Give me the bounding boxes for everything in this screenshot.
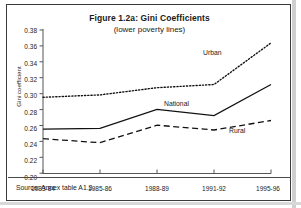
plot-area: Gini coefficient 0.38 0.36 0.34 0.32 0.3… bbox=[7, 5, 292, 202]
scan-edge-right bbox=[292, 0, 296, 208]
chart-canvas bbox=[7, 5, 292, 202]
source-divider bbox=[8, 177, 291, 178]
figure-frame: Figure 1.2a: Gini Coefficients (lower po… bbox=[6, 4, 291, 201]
y-axis-ticks bbox=[40, 30, 44, 173]
series-label-rural: Rural bbox=[229, 127, 245, 134]
series-label-national: National bbox=[164, 100, 189, 107]
scan-edge-bottom bbox=[0, 202, 301, 205]
series-line-national bbox=[43, 85, 271, 130]
series-line-urban bbox=[43, 43, 271, 97]
source-note: Source: Annex table A1.3. bbox=[16, 184, 94, 191]
x-axis-ticks bbox=[43, 170, 271, 174]
series-label-urban: Urban bbox=[203, 49, 222, 56]
